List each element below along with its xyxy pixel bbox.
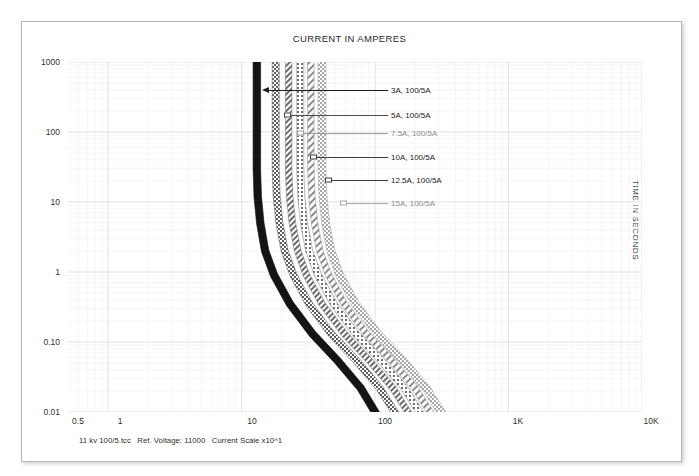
leader-marker-15a [340,201,347,206]
annotation-3a: 3A, 100/5A [391,86,431,95]
annotation-7-5a: 7.5A, 100/5A [391,129,437,138]
leader-line-3a [269,90,388,91]
x-tick-10K: 10K [643,416,658,426]
x-tick-0.5: 0.5 [72,416,84,426]
leader-marker-5a [284,113,291,118]
annotation-5a: 5A, 100/5A [391,111,431,120]
leader-line-12-5a [332,180,388,181]
x-tick-1K: 1K [513,416,523,426]
annotation-12-5a: 12.5A, 100/5A [391,176,442,185]
leader-marker-10a [310,155,317,160]
leader-line-7-5a [304,133,388,134]
chart-page: CURRENT IN AMPERES TIME IN SECONDS [0,0,699,476]
leader-arrow-3a [262,87,269,93]
leader-line-10a [317,157,388,158]
leader-marker-7-5a [297,131,304,136]
x-axis-ticks: 0.5 1 10 100 1K 10K [0,0,699,476]
x-tick-1: 1 [118,416,123,426]
x-tick-100: 100 [378,416,392,426]
footer-note: 11 kv 100/5.tcc Ref. Voltage: 11000 Curr… [79,436,282,445]
annotation-15a: 15A, 100/5A [391,199,435,208]
leader-marker-12-5a [325,178,332,183]
leader-line-5a [291,115,388,116]
annotation-10a: 10A, 100/5A [391,153,435,162]
x-tick-10: 10 [247,416,256,426]
leader-line-15a [347,203,388,204]
